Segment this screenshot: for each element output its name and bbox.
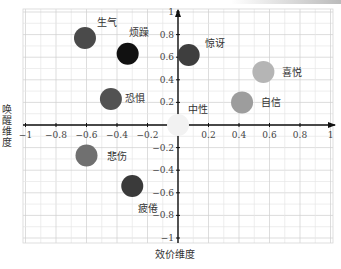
y-tick-label: 1 — [168, 7, 174, 17]
x-tick-label: −1 — [19, 130, 32, 140]
x-tick-label: 0.8 — [293, 130, 308, 140]
point-label: 自信 — [261, 96, 281, 108]
data-point-疲倦 — [121, 175, 143, 197]
y-tick-label: −0.6 — [152, 188, 174, 198]
emotion-scatter-chart: −1−0.8−0.6−0.4−0.20.20.40.60.8110.80.60.… — [0, 0, 341, 269]
x-tick-label: −0.4 — [106, 130, 128, 140]
data-point-悲伤 — [76, 145, 98, 167]
y-tick-label: 0.2 — [160, 97, 174, 107]
x-tick-label: −0.2 — [137, 130, 159, 140]
x-tick-label: −0.6 — [76, 130, 98, 140]
data-point-恐惧 — [100, 88, 122, 110]
y-tick-label: 0.8 — [160, 30, 175, 40]
x-axis-label: 效价维度 — [155, 246, 195, 261]
y-tick-label: 0.6 — [160, 52, 175, 62]
x-tick-label: 0.2 — [201, 130, 215, 140]
x-axis-arrow-icon — [328, 122, 336, 128]
y-tick-label: 0.4 — [160, 75, 175, 85]
y-axis-label: 唤醒维度 — [2, 104, 14, 148]
point-label: 疲倦 — [138, 202, 158, 214]
point-label: 中性 — [188, 103, 208, 115]
data-point-生气 — [74, 27, 96, 49]
x-tick-label: −0.8 — [45, 130, 67, 140]
y-tick-label: −0.2 — [152, 143, 174, 153]
y-tick-label: −1 — [161, 233, 174, 243]
y-tick-label: −0.4 — [152, 165, 174, 175]
point-label: 生气 — [97, 16, 117, 28]
x-tick-label: 0.4 — [232, 130, 247, 140]
point-label: 惊讶 — [205, 37, 225, 49]
point-label: 恐惧 — [125, 93, 145, 104]
x-tick-label: 1 — [328, 130, 334, 140]
point-label: 喜悦 — [282, 66, 302, 78]
data-point-烦躁 — [117, 43, 139, 65]
data-point-喜悦 — [252, 61, 274, 83]
data-point-惊讶 — [178, 44, 200, 66]
point-label: 烦躁 — [129, 26, 149, 38]
data-point-自信 — [231, 91, 253, 113]
y-axis-arrow-icon — [175, 9, 181, 17]
point-label: 悲伤 — [107, 150, 127, 162]
data-point-中性 — [167, 114, 189, 136]
x-tick-label: 0.6 — [262, 130, 277, 140]
